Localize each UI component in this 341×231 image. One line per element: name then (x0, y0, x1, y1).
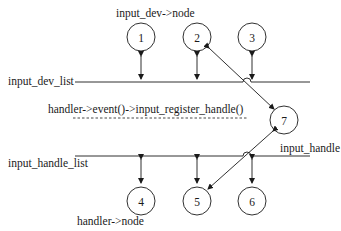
input-dev-list-line (75, 78, 310, 82)
svg-text:3: 3 (249, 32, 255, 44)
label-input-dev-node: input_dev->node (116, 7, 195, 20)
label-input-handle-list: input_handle_list (8, 157, 89, 170)
diagram-canvas: input_dev->node 1 2 3 input_dev_list han… (0, 0, 341, 231)
node-6: 6 (238, 187, 266, 215)
node-4: 4 (127, 187, 155, 215)
diagram-svg: input_dev->node 1 2 3 input_dev_list han… (0, 0, 341, 231)
node-5: 5 (183, 187, 211, 215)
node-3: 3 (238, 23, 266, 51)
label-register-handle-call: handler->event()->input_register_handle(… (48, 103, 244, 116)
node-1: 1 (127, 23, 155, 51)
svg-text:5: 5 (194, 196, 200, 208)
node-2: 2 (183, 23, 211, 51)
svg-text:7: 7 (281, 115, 287, 127)
svg-text:1: 1 (138, 32, 144, 44)
label-input-dev-list: input_dev_list (8, 75, 75, 88)
svg-text:2: 2 (194, 32, 200, 44)
svg-text:6: 6 (249, 196, 255, 208)
label-input-handle: input_handle (280, 142, 340, 155)
link-7-5 (208, 131, 273, 189)
node-7: 7 (270, 106, 298, 134)
svg-text:4: 4 (138, 196, 144, 208)
label-handler-node: handler->node (77, 215, 144, 227)
input-handle-list-line (75, 152, 310, 156)
link-2-7 (209, 48, 274, 109)
